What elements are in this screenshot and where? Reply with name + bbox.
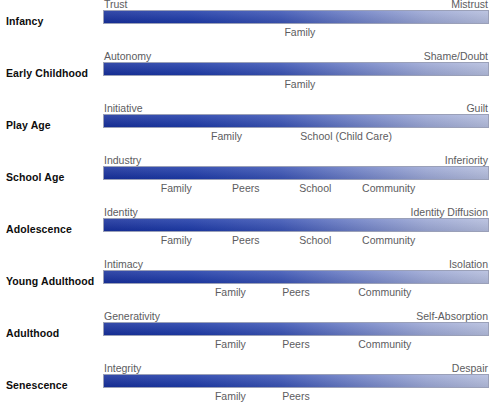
- influence-label: Family: [215, 390, 246, 403]
- stage-name-label: Senescence: [6, 379, 98, 391]
- stage-name-label: Adolescence: [6, 223, 98, 235]
- stage-bar-area: TrustMistrustFamily: [103, 0, 489, 50]
- positive-pole-label: Autonomy: [104, 50, 151, 62]
- positive-pole-label: Integrity: [104, 362, 141, 374]
- negative-pole-label: Identity Diffusion: [411, 206, 488, 218]
- stage-row: SenescenceIntegrityDespairFamilyPeers: [0, 362, 499, 405]
- influence-label: Peers: [232, 234, 259, 247]
- gradient-bar: [103, 374, 489, 388]
- influence-label: Community: [362, 182, 415, 195]
- stage-bar-area: InitiativeGuiltFamilySchool (Child Care): [103, 102, 489, 154]
- stage-row: AdolescenceIdentityIdentity DiffusionFam…: [0, 206, 499, 258]
- negative-pole-label: Isolation: [449, 258, 488, 270]
- influence-label: Peers: [282, 390, 309, 403]
- stage-name-label: School Age: [6, 171, 98, 183]
- influence-label: Peers: [232, 182, 259, 195]
- gradient-bar: [103, 114, 489, 128]
- positive-pole-label: Intimacy: [104, 258, 143, 270]
- stage-bar-area: IndustryInferiorityFamilyPeersSchoolComm…: [103, 154, 489, 206]
- negative-pole-label: Guilt: [466, 102, 488, 114]
- stage-row: Young AdulthoodIntimacyIsolationFamilyPe…: [0, 258, 499, 310]
- stage-row: AdulthoodGenerativitySelf-AbsorptionFami…: [0, 310, 499, 362]
- stage-bar-area: IntegrityDespairFamilyPeers: [103, 362, 489, 405]
- stage-bar-area: IntimacyIsolationFamilyPeersCommunity: [103, 258, 489, 310]
- stage-row: Early ChildhoodAutonomyShame/DoubtFamily: [0, 50, 499, 102]
- positive-pole-label: Generativity: [104, 310, 160, 322]
- influence-label: School: [299, 234, 331, 247]
- influence-label-group: FamilyPeers: [103, 390, 489, 405]
- positive-pole-label: Trust: [104, 0, 128, 10]
- influence-label: Family: [215, 286, 246, 299]
- influence-label: Community: [358, 286, 411, 299]
- influence-label: Family: [211, 130, 242, 143]
- gradient-bar: [103, 270, 489, 284]
- stage-row: Play AgeInitiativeGuiltFamilySchool (Chi…: [0, 102, 499, 154]
- negative-pole-label: Self-Absorption: [416, 310, 488, 322]
- stage-bar-area: IdentityIdentity DiffusionFamilyPeersSch…: [103, 206, 489, 258]
- stage-name-label: Play Age: [6, 119, 98, 131]
- influence-label-group: Family: [103, 78, 489, 94]
- positive-pole-label: Industry: [104, 154, 141, 166]
- psychosocial-stages-chart: InfancyTrustMistrustFamilyEarly Childhoo…: [0, 0, 499, 405]
- influence-label-group: FamilyPeersCommunity: [103, 286, 489, 302]
- gradient-bar: [103, 10, 489, 24]
- stage-row: School AgeIndustryInferiorityFamilyPeers…: [0, 154, 499, 206]
- negative-pole-label: Mistrust: [451, 0, 488, 10]
- stage-name-label: Young Adulthood: [6, 275, 98, 287]
- influence-label: Peers: [282, 286, 309, 299]
- influence-label-group: FamilySchool (Child Care): [103, 130, 489, 146]
- influence-label: Family: [284, 26, 315, 39]
- gradient-bar: [103, 218, 489, 232]
- stage-bar-area: AutonomyShame/DoubtFamily: [103, 50, 489, 102]
- influence-label-group: Family: [103, 26, 489, 42]
- influence-label: School: [299, 182, 331, 195]
- stage-name-label: Adulthood: [6, 327, 98, 339]
- influence-label: Family: [284, 78, 315, 91]
- positive-pole-label: Identity: [104, 206, 138, 218]
- negative-pole-label: Shame/Doubt: [424, 50, 488, 62]
- influence-label: Family: [161, 234, 192, 247]
- gradient-bar: [103, 322, 489, 336]
- influence-label: Family: [215, 338, 246, 351]
- stage-bar-area: GenerativitySelf-AbsorptionFamilyPeersCo…: [103, 310, 489, 362]
- negative-pole-label: Inferiority: [445, 154, 488, 166]
- positive-pole-label: Initiative: [104, 102, 143, 114]
- influence-label: Community: [362, 234, 415, 247]
- gradient-bar: [103, 62, 489, 76]
- influence-label: Family: [161, 182, 192, 195]
- influence-label-group: FamilyPeersCommunity: [103, 338, 489, 354]
- stage-name-label: Early Childhood: [6, 67, 98, 79]
- influence-label-group: FamilyPeersSchoolCommunity: [103, 182, 489, 198]
- stage-name-label: Infancy: [6, 15, 98, 27]
- stage-row: InfancyTrustMistrustFamily: [0, 0, 499, 50]
- influence-label-group: FamilyPeersSchoolCommunity: [103, 234, 489, 250]
- negative-pole-label: Despair: [452, 362, 488, 374]
- gradient-bar: [103, 166, 489, 180]
- influence-label: Community: [358, 338, 411, 351]
- influence-label: School (Child Care): [300, 130, 392, 143]
- influence-label: Peers: [282, 338, 309, 351]
